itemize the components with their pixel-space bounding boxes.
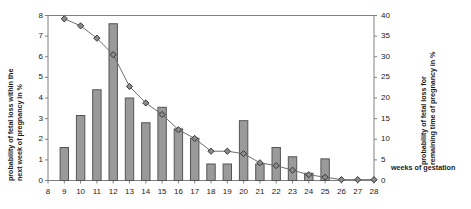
x-axis-tick-label: 14 [138, 187, 154, 196]
x-axis-tick-label: 11 [89, 187, 105, 196]
y-axis-right-title: probability of fetal loss for remaining … [420, 76, 429, 165]
bar [191, 138, 199, 180]
x-axis-tick-label: 8 [40, 187, 56, 196]
bar [142, 123, 150, 181]
y-axis-right-tick-label: 35 [381, 31, 397, 40]
y-axis-left-tick-label: 6 [29, 52, 43, 61]
y-axis-right-tick-label: 0 [381, 176, 397, 185]
x-axis-tick-label: 17 [187, 187, 203, 196]
y-axis-right-tick-label: 5 [381, 155, 397, 164]
y-axis-right-tick-label: 30 [381, 52, 397, 61]
x-axis-tick-label: 10 [73, 187, 89, 196]
y-axis-left-title-line2: next week of pregnancy in % [16, 84, 25, 181]
y-axis-right-tick-label: 10 [381, 134, 397, 143]
bar [125, 98, 133, 181]
bar [93, 90, 101, 181]
x-axis-tick-label: 22 [268, 187, 284, 196]
y-axis-right-title-line1: probability of fetal loss for [419, 76, 428, 165]
chart-figure: probability of fetal loss within the nex… [0, 0, 471, 209]
y-axis-left-title: probability of fetal loss within the nex… [7, 69, 16, 181]
chart-plot-area [0, 0, 471, 209]
y-axis-right-tick-label: 20 [381, 93, 397, 102]
x-axis-tick-label: 27 [350, 187, 366, 196]
x-axis-title: weeks of gestation [391, 163, 455, 172]
bar [60, 148, 68, 181]
x-axis-tick-label: 18 [203, 187, 219, 196]
y-axis-right-tick-label: 15 [381, 114, 397, 123]
x-axis-tick-label: 24 [301, 187, 317, 196]
y-axis-left-tick-label: 4 [29, 93, 43, 102]
y-axis-left-tick-label: 2 [29, 134, 43, 143]
line-marker [224, 148, 230, 154]
line-marker [338, 177, 344, 183]
y-axis-left-tick-label: 3 [29, 114, 43, 123]
x-axis-tick-label: 28 [366, 187, 382, 196]
y-axis-left-tick-label: 1 [29, 155, 43, 164]
x-axis-tick-label: 20 [236, 187, 252, 196]
bar [223, 164, 231, 181]
line-marker [61, 16, 67, 22]
y-axis-left-tick-label: 7 [29, 31, 43, 40]
x-axis-tick-label: 16 [170, 187, 186, 196]
x-axis-tick-label: 21 [252, 187, 268, 196]
x-axis-tick-label: 26 [333, 187, 349, 196]
bar [174, 129, 182, 181]
x-axis-tick-label: 19 [219, 187, 235, 196]
bar [207, 164, 215, 181]
y-axis-right-tick-label: 25 [381, 72, 397, 81]
x-axis-tick-label: 25 [317, 187, 333, 196]
y-axis-right-tick-label: 40 [381, 11, 397, 20]
x-axis-tick-label: 9 [56, 187, 72, 196]
x-axis-tick-label: 13 [122, 187, 138, 196]
x-axis-tick-label: 23 [285, 187, 301, 196]
y-axis-right-title-line2: remaining time of pregnancy in % [429, 52, 438, 165]
y-axis-left-title-line1: probability of fetal loss within the [6, 69, 15, 181]
line-marker [371, 177, 377, 183]
bar [109, 24, 117, 181]
y-axis-left-tick-label: 0 [29, 176, 43, 185]
y-axis-left-tick-label: 8 [29, 11, 43, 20]
y-axis-left-tick-label: 5 [29, 72, 43, 81]
bar [76, 116, 84, 181]
x-axis-tick-label: 12 [105, 187, 121, 196]
x-axis-tick-label: 15 [154, 187, 170, 196]
line-marker [355, 177, 361, 183]
